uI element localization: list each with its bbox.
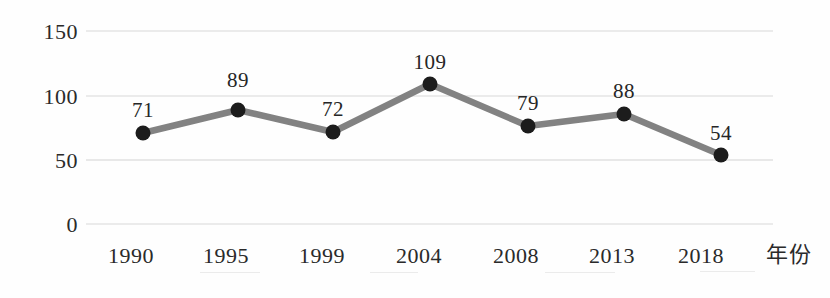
scan-artifact	[545, 272, 615, 273]
xtick-label-2013: 2013	[567, 245, 657, 267]
point-value-label-2018: 54	[691, 123, 751, 144]
point-value-label-2004: 109	[400, 52, 460, 73]
data-point-2008	[521, 119, 536, 134]
data-point-2018	[714, 148, 729, 163]
scan-artifact	[370, 272, 418, 273]
xtick-label-2008: 2008	[471, 245, 561, 267]
point-value-label-2013: 88	[594, 81, 654, 102]
data-point-1999	[326, 125, 341, 140]
data-point-2013	[617, 107, 632, 122]
ytick-label-0: 0	[16, 214, 78, 236]
scan-artifact	[200, 272, 260, 273]
ytick-label-100: 100	[16, 86, 78, 108]
point-value-label-1990: 71	[113, 100, 173, 121]
ytick-label-50: 50	[16, 150, 78, 172]
xtick-label-2004: 2004	[374, 245, 464, 267]
data-point-2004	[423, 77, 438, 92]
line-chart: 150 100 50 0 1990 1995 1999 2004 2008 20…	[0, 0, 830, 298]
data-point-1995	[231, 103, 246, 118]
xtick-label-1995: 1995	[181, 245, 271, 267]
x-axis-title: 年份	[766, 244, 812, 266]
xtick-label-2018: 2018	[656, 245, 746, 267]
data-point-1990	[136, 126, 151, 141]
point-value-label-2008: 79	[498, 93, 558, 114]
ytick-label-150: 150	[16, 21, 78, 43]
scan-artifact	[700, 271, 755, 272]
xtick-label-1999: 1999	[277, 245, 367, 267]
point-value-label-1995: 89	[208, 70, 268, 91]
xtick-label-1990: 1990	[86, 245, 176, 267]
point-value-label-1999: 72	[303, 99, 363, 120]
